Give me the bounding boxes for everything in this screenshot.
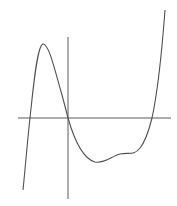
function-graph xyxy=(0,0,177,206)
polynomial-curve xyxy=(23,10,165,190)
